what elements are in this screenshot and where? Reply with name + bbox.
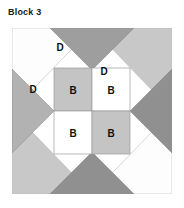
label-b-bottom-right: B	[107, 128, 114, 139]
label-b-top-left: B	[69, 85, 76, 96]
quilt-block-svg: D D D B B B B	[12, 28, 172, 194]
label-d-left: D	[29, 84, 36, 95]
label-b-bottom-left: B	[69, 128, 76, 139]
page-title: Block 3	[8, 7, 41, 18]
label-b-top-right: B	[107, 85, 114, 96]
block-diagram-screen: Block 3 D D D B	[0, 0, 184, 208]
label-d-top-left: D	[56, 42, 63, 53]
label-d-top-center: D	[100, 66, 107, 77]
quilt-block-diagram: D D D B B B B	[12, 28, 172, 194]
